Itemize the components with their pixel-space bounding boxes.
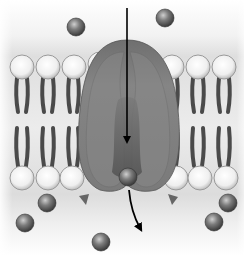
solute-inside-5: [205, 213, 223, 231]
solute-in-channel: [119, 168, 137, 186]
solute-inside-3: [92, 233, 110, 251]
solute-outside-2: [156, 9, 174, 27]
solute-inside-4: [219, 194, 237, 212]
solute-inside-2: [16, 214, 34, 232]
solute-inside-1: [38, 194, 56, 212]
solute-outside-1: [67, 18, 85, 36]
membrane-transport-diagram: being carried: [0, 0, 244, 256]
